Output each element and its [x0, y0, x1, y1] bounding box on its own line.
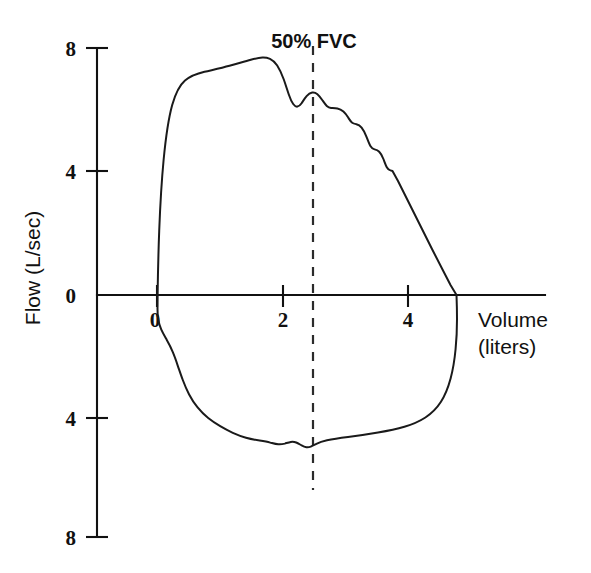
x-tick-label-1: 2	[278, 308, 289, 332]
y-tick-label-4: 8	[66, 526, 77, 550]
y-tick-label-3: 4	[66, 407, 77, 431]
y-tick-label-2: 0	[66, 284, 77, 308]
fvc-50-percent-label: 50% FVC	[271, 30, 357, 52]
x-tick-label-2: 4	[403, 308, 414, 332]
x-axis-title-line1: Volume	[478, 308, 548, 331]
flow-volume-loop-figure: 8 4 0 4 8 0 2 4 Flow (L/sec) Volume (lit…	[0, 0, 591, 573]
y-axis-title: Flow (L/sec)	[21, 211, 44, 325]
chart-canvas: 8 4 0 4 8 0 2 4 Flow (L/sec) Volume (lit…	[0, 0, 591, 573]
y-tick-label-1: 4	[66, 160, 77, 184]
expiratory-limb-curve	[158, 57, 457, 295]
x-axis-title-line2: (liters)	[478, 335, 536, 358]
y-tick-label-0: 8	[66, 37, 77, 61]
